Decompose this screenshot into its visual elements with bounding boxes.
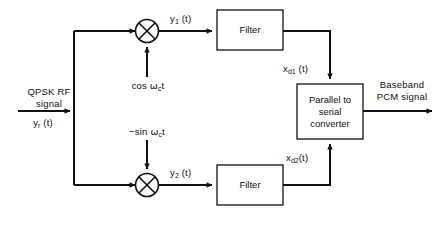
input-signal-name: QPSK RF signal: [10, 86, 88, 109]
xd1-tail: (t): [296, 63, 308, 74]
input-name-line1: QPSK RF: [27, 86, 70, 97]
input-signal-expression: yr (t): [10, 117, 76, 132]
filter-lower-label: Filter: [217, 179, 283, 191]
xd1-signal-label: xd1 (t): [283, 63, 308, 78]
y2-signal-label: y2 (t): [170, 167, 191, 182]
converter-line1: Parallel to: [309, 94, 351, 105]
y1-signal-label: y1 (t): [170, 13, 191, 28]
converter-label: Parallel to serial converter: [297, 94, 363, 130]
xd2-tail: (t): [299, 152, 309, 163]
output-line1: Baseband: [380, 79, 424, 90]
converter-line2: serial: [319, 106, 342, 117]
sin-prefix: −sin: [129, 126, 150, 137]
xd1-sub: d1: [288, 68, 296, 75]
sin-suffix: t: [162, 126, 165, 137]
sin-carrier-label: −sin ωct: [108, 126, 186, 141]
cos-carrier-label: cos ωct: [112, 80, 184, 95]
cos-omega: ω: [150, 80, 158, 91]
filter-upper-label: Filter: [217, 24, 283, 36]
output-line2: PCM signal: [377, 91, 428, 102]
cos-suffix: t: [162, 80, 165, 91]
input-name-line2: signal: [36, 98, 62, 109]
y1-tail: (t): [179, 13, 191, 24]
converter-line3: converter: [310, 118, 350, 129]
y2-tail: (t): [179, 167, 191, 178]
xd2-sub: d2: [291, 157, 299, 164]
qpsk-demodulator-diagram: QPSK RF signal yr (t) cos ωct −sin ωct y…: [0, 0, 441, 227]
input-expr-tail: (t): [40, 117, 52, 128]
output-signal-label: Baseband PCM signal: [366, 79, 438, 102]
cos-prefix: cos: [132, 80, 150, 91]
xd2-signal-label: xd2(t): [286, 152, 308, 167]
sin-omega: ω: [150, 126, 158, 137]
